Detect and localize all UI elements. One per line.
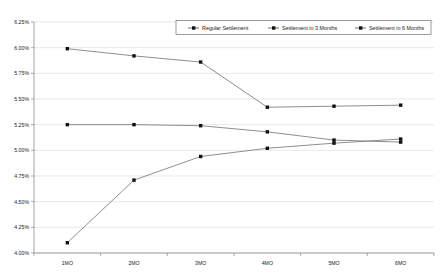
- y-tick-label: 4.75%: [14, 173, 29, 179]
- chart-canvas: 4.00%4.25%4.50%4.75%5.00%5.25%5.50%5.75%…: [0, 0, 446, 278]
- data-point-marker: [199, 124, 202, 127]
- data-point-marker: [399, 140, 402, 143]
- data-series: [66, 123, 403, 144]
- x-tick-label: 3MO: [195, 260, 206, 266]
- data-point-marker: [132, 54, 135, 57]
- x-tick-label: 1MO: [62, 260, 73, 266]
- legend-label: Settlement in 3 Months: [282, 25, 337, 31]
- x-tick-label: 2MO: [128, 260, 139, 266]
- data-point-marker: [132, 123, 135, 126]
- y-tick-label: 4.25%: [14, 224, 29, 230]
- data-point-marker: [266, 130, 269, 133]
- data-point-marker: [399, 137, 402, 140]
- y-axis-ticks: 4.00%4.25%4.50%4.75%5.00%5.25%5.50%5.75%…: [14, 19, 34, 256]
- data-point-marker: [66, 123, 69, 126]
- y-tick-label: 4.50%: [14, 199, 29, 205]
- series-line: [67, 125, 400, 142]
- x-tick-label: 6MO: [395, 260, 406, 266]
- data-point-marker: [199, 60, 202, 63]
- y-tick-label: 6.25%: [14, 19, 29, 25]
- legend-marker: [192, 26, 195, 29]
- legend-marker: [272, 26, 275, 29]
- legend-label: Settlement in 6 Months: [369, 25, 424, 31]
- y-tick-label: 6.00%: [14, 45, 29, 51]
- series-container: [66, 47, 403, 244]
- gridlines: [34, 22, 434, 253]
- y-tick-label: 5.25%: [14, 122, 29, 128]
- series-line: [67, 49, 400, 108]
- data-series: [66, 137, 403, 244]
- y-tick-label: 5.00%: [14, 147, 29, 153]
- data-point-marker: [266, 106, 269, 109]
- data-point-marker: [266, 147, 269, 150]
- data-point-marker: [199, 155, 202, 158]
- y-tick-label: 5.50%: [14, 96, 29, 102]
- legend-label: Regular Settlement: [202, 25, 249, 31]
- chart-legend: Regular SettlementSettlement in 3 Months…: [176, 21, 431, 35]
- data-point-marker: [66, 241, 69, 244]
- data-point-marker: [66, 47, 69, 50]
- x-tick-label: 5MO: [328, 260, 339, 266]
- data-series: [66, 47, 403, 109]
- y-tick-label: 5.75%: [14, 70, 29, 76]
- y-tick-label: 4.00%: [14, 250, 29, 256]
- data-point-marker: [132, 178, 135, 181]
- legend-marker: [359, 26, 362, 29]
- data-point-marker: [399, 103, 402, 106]
- x-axis-ticks: 1MO2MO3MO4MO5MO6MO: [34, 253, 434, 266]
- x-tick-label: 4MO: [262, 260, 273, 266]
- data-point-marker: [332, 104, 335, 107]
- line-chart: 4.00%4.25%4.50%4.75%5.00%5.25%5.50%5.75%…: [0, 0, 446, 278]
- data-point-marker: [332, 138, 335, 141]
- data-point-marker: [332, 141, 335, 144]
